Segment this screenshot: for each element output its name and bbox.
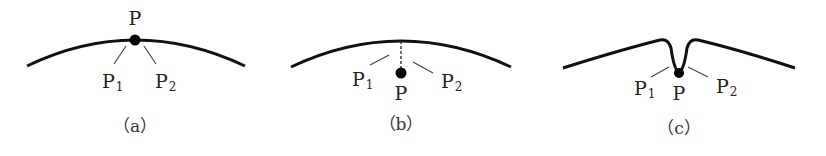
point-p-a	[130, 35, 141, 46]
label-p-a: P	[129, 7, 142, 29]
panel-c: P P1 P2 （c）	[563, 40, 795, 138]
caption-c: （c）	[657, 118, 701, 138]
leader-p2-b	[413, 62, 433, 73]
label-p1-a: P1	[102, 70, 123, 94]
label-p-c: P	[673, 82, 686, 104]
leader-p1-a	[114, 46, 126, 64]
label-p2-a: P2	[155, 70, 176, 94]
curve-c	[563, 40, 795, 72]
point-p-c	[674, 68, 684, 78]
caption-b: （b）	[379, 114, 424, 134]
caption-a: （a）	[113, 116, 157, 136]
label-p-b: P	[395, 82, 408, 104]
label-p2-c: P2	[716, 75, 737, 99]
figure-canvas: P P1 P2 （a） P P1 P2 （b） P P1 P2 （c）	[0, 0, 826, 156]
leader-p2-a	[144, 46, 156, 64]
label-p2-b: P2	[441, 70, 462, 94]
label-p1-c: P1	[634, 77, 655, 101]
leader-p1-b	[370, 55, 389, 65]
panel-a: P P1 P2 （a）	[27, 7, 245, 136]
panel-b: P P1 P2 （b）	[291, 41, 511, 134]
point-p-b	[396, 68, 407, 79]
leader-p1-c	[651, 67, 669, 77]
label-p1-b: P1	[352, 68, 373, 92]
leader-p2-c	[688, 67, 708, 77]
